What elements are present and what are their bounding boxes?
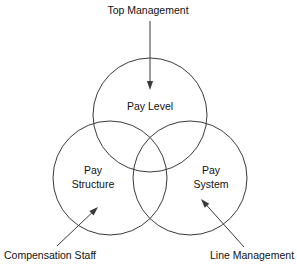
caption-top-management: Top Management bbox=[107, 4, 188, 16]
label-pay-system-line1: Pay bbox=[202, 164, 221, 176]
label-pay-structure-line2: Structure bbox=[72, 178, 115, 190]
caption-line-management: Line Management bbox=[210, 249, 294, 261]
label-pay-structure-line1: Pay bbox=[84, 164, 103, 176]
arrow-line-compensation-staff bbox=[57, 210, 94, 246]
annotation-arrow-top-management bbox=[147, 21, 153, 90]
caption-compensation-staff: Compensation Staff bbox=[4, 249, 96, 261]
annotation-arrow-compensation-staff bbox=[57, 207, 98, 246]
label-pay-level: Pay Level bbox=[127, 100, 173, 112]
arrow-head-top-management bbox=[147, 81, 153, 90]
annotation-arrow-line-management bbox=[201, 199, 244, 247]
venn-diagram-container: Pay Level Pay Structure Pay System Top M… bbox=[0, 0, 297, 266]
label-pay-system-line2: System bbox=[193, 178, 228, 190]
diagram-canvas: Pay Level Pay Structure Pay System Top M… bbox=[0, 0, 297, 266]
